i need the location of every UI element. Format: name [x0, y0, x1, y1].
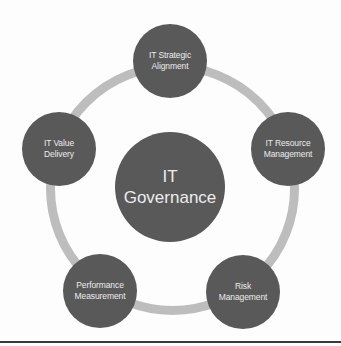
node-label-line-1: Risk	[235, 281, 251, 292]
it-governance-diagram: IT Governance IT Strategic Alignment IT …	[0, 0, 341, 346]
node-label-line-2: Alignment	[152, 61, 189, 72]
node-it-resource-management: IT Resource Management	[251, 112, 325, 186]
node-label-line-1: Performance	[76, 280, 124, 291]
node-it-value-delivery: IT Value Delivery	[22, 112, 96, 186]
node-label-line-2: Measurement	[75, 291, 126, 302]
node-label-line-2: Management	[219, 292, 268, 303]
node-label-line-2: Delivery	[44, 149, 74, 160]
center-label-line-1: IT	[162, 166, 177, 187]
node-label-line-2: Management	[264, 149, 313, 160]
center-label-line-2: Governance	[124, 187, 217, 208]
node-label-line-1: IT Value	[44, 138, 74, 149]
node-risk-management: Risk Management	[206, 255, 280, 329]
node-label-line-1: IT Strategic	[149, 50, 191, 61]
node-it-strategic-alignment: IT Strategic Alignment	[133, 24, 207, 98]
node-label-line-1: IT Resource	[265, 138, 310, 149]
node-performance-measurement: Performance Measurement	[63, 254, 137, 328]
center-node-it-governance: IT Governance	[115, 132, 225, 242]
bottom-divider-line	[0, 341, 341, 343]
